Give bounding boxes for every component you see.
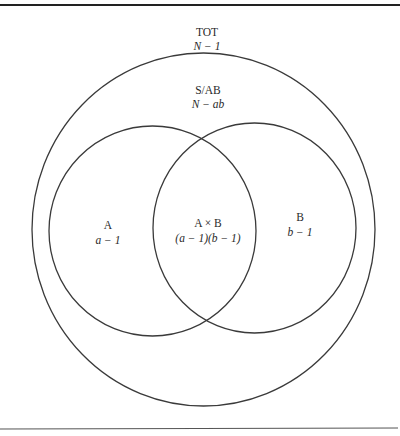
within-label: S/AB (195, 84, 221, 96)
factor-b-circle (153, 123, 356, 333)
factor-a-df: a − 1 (95, 234, 120, 246)
venn-diagram: TOT N − 1 S/AB N − ab A a − 1 A × B (a −… (0, 0, 400, 436)
interaction-label: A × B (194, 217, 222, 229)
factor-b-df: b − 1 (287, 226, 312, 238)
factor-a-label: A (104, 219, 113, 231)
factor-b-label: B (296, 211, 304, 223)
interaction-df: (a − 1)(b − 1) (175, 232, 241, 245)
within-df: N − ab (191, 98, 225, 110)
total-label: TOT (196, 26, 218, 38)
bottom-rule (0, 428, 398, 429)
total-df: N − 1 (193, 40, 221, 52)
